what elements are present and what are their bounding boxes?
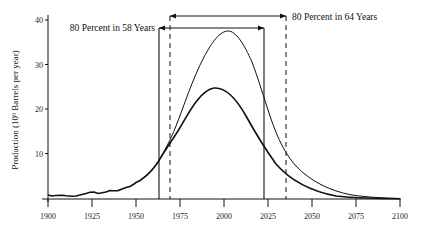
arrowhead-right-icon <box>258 26 264 31</box>
x-tick-2100: 2100 <box>392 212 408 221</box>
x-tick-2075: 2075 <box>348 212 364 221</box>
oil-production-chart: 10 20 30 40 1900 1925 1950 1975 2000 202… <box>0 0 421 232</box>
x-tick-2050: 2050 <box>304 212 320 221</box>
arrowhead-right-icon <box>280 14 286 19</box>
arrowhead-left-icon <box>170 14 176 19</box>
higher-estimate-curve <box>144 31 400 199</box>
x-ticks <box>48 199 400 207</box>
arrowhead-left-icon <box>159 26 165 31</box>
historical-production-line <box>48 178 144 197</box>
x-tick-2025: 2025 <box>260 212 276 221</box>
y-tick-20: 20 <box>35 105 43 114</box>
lower-estimate-curve <box>144 88 400 199</box>
annotation-64-years: 80 Percent in 64 Years <box>292 12 378 22</box>
x-tick-1900: 1900 <box>40 212 56 221</box>
x-tick-1950: 1950 <box>128 212 144 221</box>
x-tick-1975: 1975 <box>172 212 188 221</box>
y-tick-10: 10 <box>35 150 43 159</box>
x-tick-2000: 2000 <box>216 212 232 221</box>
y-tick-30: 30 <box>35 61 43 70</box>
x-tick-1925: 1925 <box>84 212 100 221</box>
y-axis-label: Production (10⁹ Barrels per year) <box>10 50 20 170</box>
y-tick-40: 40 <box>35 16 43 25</box>
annotation-58-years: 80 Percent in 58 Years <box>70 23 156 33</box>
